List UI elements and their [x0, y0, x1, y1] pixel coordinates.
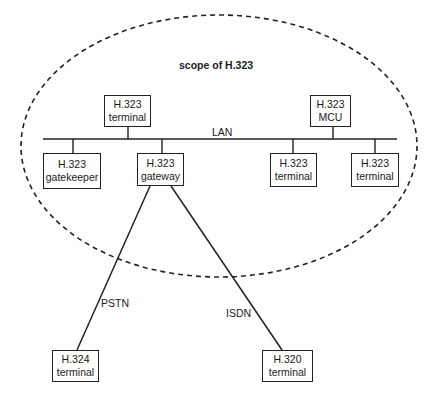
h323-mcu-node: H.323 MCU: [310, 95, 351, 127]
h323-gatekeeper-node: H.323 gatekeeper: [43, 153, 101, 189]
node-line1: H.324: [53, 353, 98, 366]
node-line2: gatekeeper: [44, 171, 100, 184]
scope-title: scope of H.323: [179, 59, 253, 71]
scope-boundary: [21, 15, 417, 277]
node-line2: terminal: [263, 366, 312, 379]
node-line1: H.323: [44, 158, 100, 171]
pstn-label: PSTN: [101, 297, 129, 309]
node-line1: H.323: [271, 157, 316, 170]
node-line2: terminal: [105, 111, 150, 124]
h323-terminal-right2-node: H.323 terminal: [351, 153, 399, 187]
node-line2: gateway: [138, 170, 183, 183]
h323-gateway-node: H.323 gateway: [137, 153, 184, 186]
lan-label: LAN: [212, 126, 232, 138]
node-line1: H.323: [105, 98, 150, 111]
isdn-label: ISDN: [226, 307, 251, 319]
isdn-link: [171, 186, 282, 350]
pstn-link: [77, 186, 150, 350]
node-line2: MCU: [311, 111, 350, 124]
h323-terminal-right1-node: H.323 terminal: [270, 153, 317, 187]
node-line2: terminal: [352, 170, 398, 183]
h324-terminal-node: H.324 terminal: [52, 350, 99, 382]
h323-terminal-top-node: H.323 terminal: [104, 95, 151, 127]
node-line2: terminal: [53, 366, 98, 379]
node-line1: H.323: [352, 157, 398, 170]
node-line2: terminal: [271, 170, 316, 183]
node-line1: H.323: [138, 157, 183, 170]
node-line1: H.323: [311, 98, 350, 111]
h320-terminal-node: H.320 terminal: [262, 350, 313, 382]
node-line1: H.320: [263, 353, 312, 366]
